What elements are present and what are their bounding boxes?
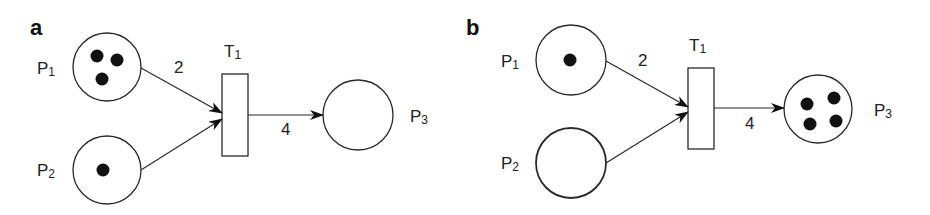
- place-circle: [323, 80, 393, 150]
- arc-weight: 2: [638, 51, 647, 70]
- arc-weight: 4: [281, 120, 290, 139]
- panel-label: b: [466, 15, 479, 40]
- place-label: P2: [37, 161, 55, 181]
- token: [97, 164, 110, 177]
- token: [828, 92, 841, 105]
- place-circle: [784, 75, 852, 143]
- transition-bar: [222, 74, 248, 156]
- token: [830, 115, 843, 128]
- place-label: P3: [874, 101, 892, 121]
- transition-bar: [688, 68, 714, 149]
- arc-weight: 4: [745, 114, 754, 133]
- place-p1: P1: [501, 25, 606, 95]
- place-p3: P3: [323, 80, 428, 150]
- place-label: P2: [501, 154, 519, 174]
- token: [96, 73, 109, 86]
- panel-label: a: [30, 15, 43, 40]
- place-label: P3: [410, 107, 428, 127]
- transition-t1: T1: [222, 42, 248, 156]
- place-p3: P3: [784, 75, 892, 143]
- arc-p2-t1: [141, 119, 222, 170]
- panel-b: b P1 P2 T1 P3 2 4: [466, 15, 892, 198]
- token: [801, 98, 814, 111]
- transition-label: T1: [224, 42, 241, 62]
- place-p1: P1: [37, 33, 141, 101]
- place-circle: [536, 128, 606, 198]
- token: [564, 54, 577, 67]
- petri-net-figure: a P1 P2 T1 P3 2 4: [0, 0, 930, 215]
- token: [111, 54, 124, 67]
- token: [91, 50, 104, 63]
- arc-p2-t1: [606, 112, 688, 163]
- transition-label: T1: [689, 36, 706, 56]
- place-label: P1: [37, 59, 55, 79]
- panel-a: a P1 P2 T1 P3 2 4: [30, 15, 428, 204]
- transition-t1: T1: [688, 36, 714, 149]
- place-circle: [73, 33, 141, 101]
- arc-weight: 2: [174, 58, 183, 77]
- place-label: P1: [501, 52, 519, 72]
- token: [804, 118, 817, 131]
- place-p2: P2: [501, 128, 606, 198]
- place-p2: P2: [37, 136, 141, 204]
